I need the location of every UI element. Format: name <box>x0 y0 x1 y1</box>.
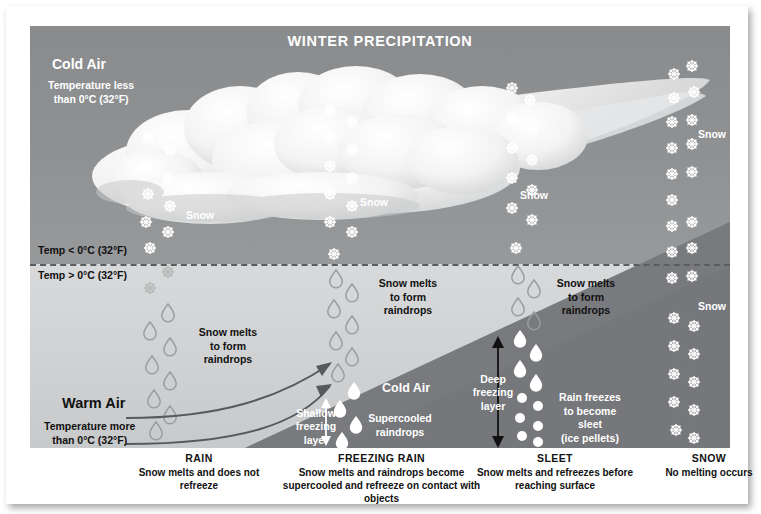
snow-label-snow-column-lower: Snow <box>698 300 726 313</box>
temp-above-freezing-label: Temp > 0°C (32°F) <box>38 269 127 282</box>
deep-freezing-layer-label: Deep freezing layer <box>468 373 518 413</box>
warm-air-label: Warm Air <box>62 394 125 412</box>
snow-label-snow-column-upper: Snow <box>698 128 726 141</box>
caption-snow-heading: SNOW <box>644 452 761 464</box>
temp-below-freezing-label: Temp < 0°C (32°F) <box>38 244 127 257</box>
cold-air-label-top: Cold Air <box>52 56 106 74</box>
caption-freezing-rain-body: Snow melts and raindrops become supercoo… <box>274 466 489 505</box>
caption-rain-body: Snow melts and does not refreeze <box>124 466 274 492</box>
caption-sleet-body: Snow melts and refreezes before reaching… <box>470 466 640 492</box>
figure-page: WINTER PRECIPITATION Cold Air Temperatur… <box>0 0 761 514</box>
supercooled-raindrops-label: Supercooled raindrops <box>352 412 448 439</box>
paper-sheet: WINTER PRECIPITATION Cold Air Temperatur… <box>6 6 748 504</box>
diagram-title: WINTER PRECIPITATION <box>30 32 730 50</box>
caption-rain: RAIN Snow melts and does not refreeze <box>124 452 274 492</box>
annotation-melt-rain: Snow melts to form raindrops <box>180 326 276 367</box>
precipitation-tracks <box>30 26 730 448</box>
snow-label-sleet-column: Snow <box>520 189 548 202</box>
diagram-canvas: WINTER PRECIPITATION Cold Air Temperatur… <box>30 26 730 448</box>
cold-air-temperature-top: Temperature less than 0°C (32°F) <box>48 78 134 106</box>
snow-label-rain-column: Snow <box>186 209 214 222</box>
snow-label-freezing-rain-column: Snow <box>360 196 388 209</box>
caption-snow: SNOW No melting occurs <box>644 452 761 479</box>
shallow-freezing-layer-label: Shallow freezing layer <box>288 407 344 447</box>
warm-air-temperature: Temperature more than 0°C (32°F) <box>44 419 135 447</box>
annotation-melt-freezing-rain: Snow melts to form raindrops <box>360 277 456 318</box>
caption-freezing-rain: FREEZING RAIN Snow melts and raindrops b… <box>274 452 489 505</box>
caption-rain-heading: RAIN <box>124 452 274 464</box>
caption-strip: RAIN Snow melts and does not refreeze FR… <box>30 452 730 504</box>
caption-snow-body: No melting occurs <box>644 466 761 479</box>
caption-sleet-heading: SLEET <box>470 452 640 464</box>
cold-air-wedge-label: Cold Air <box>382 381 430 397</box>
caption-freezing-rain-heading: FREEZING RAIN <box>274 452 489 464</box>
annotation-melt-sleet: Snow melts to form raindrops <box>538 277 634 318</box>
sleet-formation-label: Rain freezes to become sleet (ice pellet… <box>538 391 642 446</box>
caption-sleet: SLEET Snow melts and refreezes before re… <box>470 452 640 492</box>
